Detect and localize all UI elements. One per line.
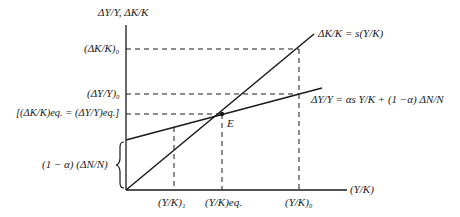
x-tick-yk-eq: (Y/K)eq. bbox=[205, 197, 242, 208]
y-tick-dk-k-0: (ΔK/K)₀ bbox=[84, 43, 119, 54]
capital-growth-label: ΔK/K = s(Y/K) bbox=[318, 28, 383, 39]
equilibrium-point-marker bbox=[220, 112, 224, 116]
x-axis-label: (Y/K) bbox=[350, 184, 374, 195]
y-tick-dy-y-0: (ΔY/Y)₀ bbox=[87, 88, 120, 99]
y-axis-label: ΔY/Y, ΔK/K bbox=[98, 7, 148, 18]
x-tick-yk-1: (Y/K)₁ bbox=[158, 197, 186, 208]
output-growth-label: ΔY/Y = αs Y/K + (1 −α) ΔN/N bbox=[311, 94, 444, 105]
capital-growth-line bbox=[126, 34, 314, 190]
x-tick-yk-0: (Y/K)₀ bbox=[285, 197, 313, 208]
intercept-brace-icon bbox=[116, 142, 124, 188]
y-tick-intercept: (1 − α) (ΔN/N) bbox=[42, 159, 108, 170]
y-tick-equilibrium: [(ΔK/K)eq. = (ΔY/Y)eq.] bbox=[16, 108, 119, 119]
equilibrium-point-label: E bbox=[227, 118, 234, 129]
